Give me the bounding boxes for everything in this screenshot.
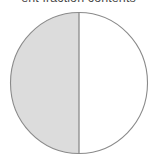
pie-chart-figure bbox=[10, 12, 148, 154]
figure-caption: ent fraction contents bbox=[21, 0, 136, 5]
screenshot-root: ent fraction contents bbox=[0, 0, 157, 160]
pie-chart-svg bbox=[10, 12, 148, 154]
figure-caption-clip: ent fraction contents bbox=[0, 0, 157, 5]
